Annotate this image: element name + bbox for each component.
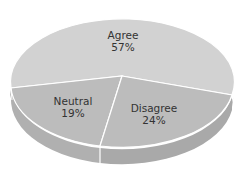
- label-neutral-pct: 19%: [38, 107, 108, 119]
- pie-chart: [0, 0, 241, 175]
- label-neutral-name: Neutral: [38, 95, 108, 107]
- label-neutral: Neutral 19%: [38, 95, 108, 119]
- label-agree-pct: 57%: [88, 41, 158, 53]
- label-agree-name: Agree: [88, 29, 158, 41]
- label-disagree: Disagree 24%: [119, 102, 189, 126]
- label-agree: Agree 57%: [88, 29, 158, 53]
- label-disagree-name: Disagree: [119, 102, 189, 114]
- label-disagree-pct: 24%: [119, 114, 189, 126]
